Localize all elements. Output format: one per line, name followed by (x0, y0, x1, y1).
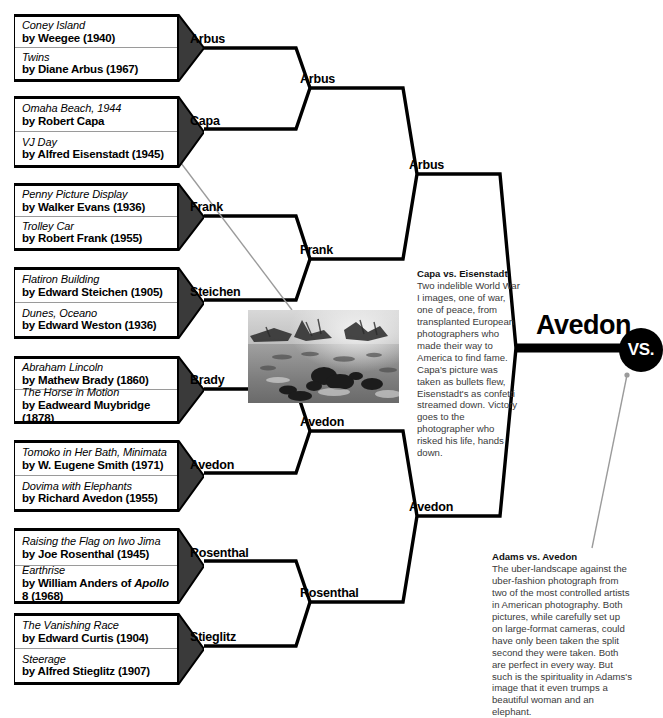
vs-badge: VS. (619, 328, 663, 372)
matchup-seed[interactable]: Trolley Carby Robert Frank (1955) (15, 217, 177, 248)
matchup-seed[interactable]: Tomoko in Her Bath, Minimataby W. Eugene… (15, 443, 177, 476)
round1-winner-capa[interactable]: Capa (190, 114, 220, 128)
seed-credit: by William Anders of Apollo 8 (1968) (22, 577, 171, 603)
seed-credit: by Edward Curtis (1904) (22, 632, 171, 645)
caption-capa-vs-eisenstadt: Capa vs. Eisenstadt Two indelible World … (417, 268, 521, 459)
seed-title: Raising the Flag on Iwo Jima (22, 535, 171, 548)
round2-winner-arbus[interactable]: Arbus (300, 72, 335, 86)
seed-credit: by Robert Frank (1955) (22, 232, 171, 245)
matchup-chevron-icon (178, 14, 204, 82)
round1-matchup-box: Raising the Flag on Iwo Jimaby Joe Rosen… (14, 528, 178, 604)
seed-credit: by W. Eugene Smith (1971) (22, 459, 171, 472)
seed-credit: by Richard Avedon (1955) (22, 492, 171, 505)
matchup-chevron-icon (178, 183, 204, 251)
caption-adams-body: The uber-landscape against the uber-fash… (492, 563, 632, 717)
seed-title: Dovima with Elephants (22, 480, 171, 493)
round1-matchup-box: Abraham Lincolnby Mathew Brady (1860)The… (14, 356, 178, 424)
matchup-seed[interactable]: The Vanishing Raceby Edward Curtis (1904… (15, 616, 177, 649)
matchup-seed[interactable]: Steerageby Alfred Stieglitz (1907) (15, 649, 177, 682)
seed-title: Penny Picture Display (22, 188, 171, 201)
seed-credit: by Mathew Brady (1860) (22, 374, 171, 387)
round3-winner-arbus[interactable]: Arbus (409, 158, 444, 172)
round1-matchup-box: Flatiron Buildingby Edward Steichen (190… (14, 267, 178, 339)
seed-title: VJ Day (22, 136, 171, 149)
round1-winner-avedon[interactable]: Avedon (190, 458, 234, 472)
round1-winner-frank[interactable]: Frank (190, 200, 223, 214)
round1-winner-stieglitz[interactable]: Stieglitz (190, 630, 236, 644)
seed-title: Trolley Car (22, 220, 171, 233)
caption-capa-heading: Capa vs. Eisenstadt (417, 268, 521, 280)
seed-title: Flatiron Building (22, 273, 171, 286)
matchup-seed[interactable]: Penny Picture Displayby Walker Evans (19… (15, 186, 177, 217)
matchup-chevron-icon (178, 267, 204, 339)
seed-credit: by Walker Evans (1936) (22, 201, 171, 214)
matchup-seed[interactable]: Coney Islandby Weegee (1940) (15, 17, 177, 48)
seed-credit: by Edward Steichen (1905) (22, 286, 171, 299)
round1-matchup-box: Coney Islandby Weegee (1940)Twinsby Dian… (14, 14, 178, 82)
seed-title: Dunes, Oceano (22, 307, 171, 320)
final-winner-label[interactable]: Avedon (536, 310, 631, 341)
matchup-chevron-icon (178, 96, 204, 168)
seed-credit: by Edward Weston (1936) (22, 319, 171, 332)
seed-credit: by Diane Arbus (1967) (22, 63, 171, 76)
seed-title: Tomoko in Her Bath, Minimata (22, 446, 171, 459)
seed-credit: by Joe Rosenthal (1945) (22, 548, 171, 561)
round1-winner-arbus[interactable]: Arbus (190, 32, 225, 46)
adams-pointer-line (592, 372, 630, 548)
round1-matchup-box: Omaha Beach, 1944by Robert CapaVJ Dayby … (14, 96, 178, 168)
caption-adams-vs-avedon: Adams vs. Avedon The uber-landscape agai… (492, 551, 632, 718)
matchup-chevron-icon (178, 613, 204, 685)
seed-title: Omaha Beach, 1944 (22, 102, 171, 115)
seed-credit: by Alfred Stieglitz (1907) (22, 665, 171, 678)
round1-matchup-box: Tomoko in Her Bath, Minimataby W. Eugene… (14, 440, 178, 512)
round3-winner-avedon[interactable]: Avedon (409, 500, 453, 514)
round1-winner-steichen[interactable]: Steichen (190, 285, 241, 299)
matchup-seed[interactable]: Dunes, Oceanoby Edward Weston (1936) (15, 303, 177, 336)
round1-winner-brady[interactable]: Brady (190, 373, 224, 387)
round2-winner-rosenthal[interactable]: Rosenthal (300, 586, 359, 600)
seed-credit: by Alfred Eisenstadt (1945) (22, 148, 171, 161)
seed-title: The Horse in Motion (22, 386, 171, 399)
matchup-chevron-icon (178, 440, 204, 512)
omaha-beach-photo (248, 310, 399, 403)
seed-credit: by Eadweard Muybridge (1878) (22, 399, 171, 425)
seed-title: Abraham Lincoln (22, 361, 171, 374)
matchup-seed[interactable]: Twinsby Diane Arbus (1967) (15, 48, 177, 79)
seed-title: Earthrise (22, 564, 171, 577)
round1-matchup-box: Penny Picture Displayby Walker Evans (19… (14, 183, 178, 251)
matchup-chevron-icon (178, 528, 204, 604)
matchup-seed[interactable]: The Horse in Motionby Eadweard Muybridge… (15, 390, 177, 421)
caption-capa-body: Two indelible World War I images, one of… (417, 280, 520, 458)
round2-winner-frank[interactable]: Frank (300, 243, 333, 257)
matchup-seed[interactable]: Earthriseby William Anders of Apollo 8 (… (15, 566, 177, 601)
matchup-seed[interactable]: Raising the Flag on Iwo Jimaby Joe Rosen… (15, 531, 177, 566)
round2-winner-avedon[interactable]: Avedon (300, 415, 344, 429)
round1-winner-rosenthal[interactable]: Rosenthal (190, 546, 249, 560)
seed-title: Steerage (22, 653, 171, 666)
matchup-seed[interactable]: Omaha Beach, 1944by Robert Capa (15, 99, 177, 132)
matchup-seed[interactable]: Dovima with Elephantsby Richard Avedon (… (15, 476, 177, 509)
caption-adams-heading: Adams vs. Avedon (492, 551, 632, 563)
seed-credit: by Robert Capa (22, 115, 171, 128)
matchup-chevron-icon (178, 356, 204, 424)
seed-credit: by Weegee (1940) (22, 32, 171, 45)
round1-matchup-box: The Vanishing Raceby Edward Curtis (1904… (14, 613, 178, 685)
seed-title: Twins (22, 51, 171, 64)
matchup-seed[interactable]: VJ Dayby Alfred Eisenstadt (1945) (15, 132, 177, 165)
seed-title: The Vanishing Race (22, 619, 171, 632)
seed-title: Coney Island (22, 19, 171, 32)
matchup-seed[interactable]: Flatiron Buildingby Edward Steichen (190… (15, 270, 177, 303)
